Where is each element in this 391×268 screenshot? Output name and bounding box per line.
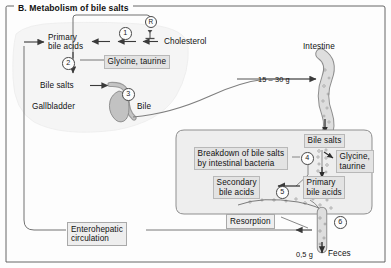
- label-glycine-taurine-gut: Glycine, taurine: [336, 150, 374, 173]
- label-primary-bile-acids-gut: Primary bile acids: [303, 176, 345, 199]
- liver-silhouette: [13, 22, 188, 132]
- label-glycine-taurine-liver: Glycine, taurine: [104, 55, 170, 69]
- label-cholesterol: Cholesterol: [164, 37, 207, 46]
- label-gallbladder: Gallbladder: [32, 102, 75, 111]
- label-secondary-bile-acids: Secondary bile acids: [213, 176, 260, 199]
- label-bile-salts-intestine: Bile salts: [304, 134, 345, 148]
- label-breakdown-by-bacteria: Breakdown of bile salts by intestinal ba…: [194, 147, 288, 170]
- figure-panel: B. Metabolism of bile salts Primary bile…: [0, 0, 391, 268]
- marker-step-6: 6: [334, 216, 347, 229]
- intestine-tube: [321, 54, 330, 136]
- marker-step-3: 3: [122, 88, 135, 101]
- label-intestine: Intestine: [303, 42, 335, 51]
- label-bile-salts-liver: Bile salts: [40, 81, 74, 90]
- label-enterohepatic-circulation: Enterohepatic circulation: [67, 222, 127, 246]
- marker-step-4: 4: [301, 152, 314, 165]
- label-primary-bile-acids-liver: Primary bile acids: [48, 33, 83, 52]
- label-bile: Bile: [137, 102, 151, 111]
- label-feces-amount: 0,5 g: [296, 250, 313, 259]
- marker-step-5: 5: [276, 186, 289, 199]
- label-feces: Feces: [328, 249, 351, 258]
- marker-step-1: 1: [119, 27, 132, 40]
- lower-intestine-tube: [319, 212, 326, 253]
- label-resorption: Resorption: [226, 214, 275, 229]
- label-bile-salt-amount: 15 – 30 g: [258, 75, 290, 84]
- page-title: B. Metabolism of bile salts: [14, 3, 133, 13]
- marker-step-2: 2: [62, 57, 75, 70]
- marker-regulation: R: [145, 16, 158, 29]
